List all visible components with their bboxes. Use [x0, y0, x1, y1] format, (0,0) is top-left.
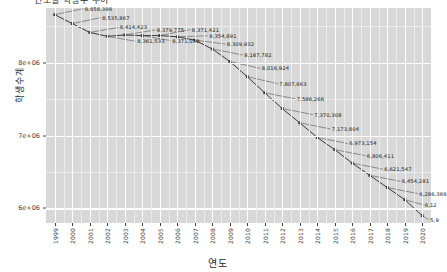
gridline-minor-vertical — [396, 8, 397, 223]
x-tick-label: 2019 — [402, 228, 409, 244]
gridline-minor-vertical — [309, 8, 310, 223]
gridline-major-vertical — [125, 8, 126, 223]
y-tick-label: 8e+06 — [18, 59, 40, 67]
x-tick-label: 2008 — [209, 228, 216, 244]
x-tick-mark — [90, 223, 91, 226]
gridline-major-vertical — [370, 8, 371, 223]
data-label: 8,309,932 — [227, 41, 254, 47]
gridline-minor-vertical — [204, 8, 205, 223]
x-tick-label: 1999 — [52, 228, 59, 244]
data-label: 8,658,398 — [85, 6, 112, 12]
x-tick-mark — [160, 223, 161, 226]
gridline-major-vertical — [212, 8, 213, 223]
gridline-minor-vertical — [99, 8, 100, 223]
gridline-minor-vertical — [291, 8, 292, 223]
data-label: 6,621,547 — [384, 166, 411, 172]
x-tick-label: 2010 — [244, 228, 251, 244]
gridline-major-vertical — [300, 8, 301, 223]
gridline-minor-vertical — [414, 8, 415, 223]
gridline-major-vertical — [265, 8, 266, 223]
label-leader-line — [72, 18, 101, 24]
gridline-major-vertical — [352, 8, 353, 223]
gridline-minor-vertical — [169, 8, 170, 223]
x-tick-mark — [370, 223, 371, 226]
data-label: 8,379,775 — [157, 27, 184, 33]
y-tick-mark — [43, 62, 46, 63]
data-label: 6,973,154 — [349, 140, 376, 146]
x-tick-label: 2006 — [174, 228, 181, 244]
x-tick-label: 2001 — [87, 228, 94, 244]
gridline-minor-vertical — [344, 8, 345, 223]
gridline-major-vertical — [282, 8, 283, 223]
data-label: 7,807,663 — [279, 81, 306, 87]
data-label: 8,371,030 — [172, 38, 199, 44]
x-tick-mark — [405, 223, 406, 226]
data-label: 8,361,533 — [137, 38, 164, 44]
x-tick-mark — [282, 223, 283, 226]
data-label: 8,371,421 — [192, 27, 219, 33]
x-tick-label: 2009 — [227, 228, 234, 244]
label-leader-line — [107, 36, 136, 41]
x-tick-mark — [352, 223, 353, 226]
x-tick-mark — [300, 223, 301, 226]
gridline-minor-vertical — [274, 8, 275, 223]
gridline-minor-vertical — [221, 8, 222, 223]
gridline-major-vertical — [55, 8, 56, 223]
x-tick-mark — [317, 223, 318, 226]
gridline-major-vertical — [405, 8, 406, 223]
x-axis-title: 연도 — [0, 255, 436, 270]
x-tick-label: 2016 — [349, 228, 356, 244]
data-label: 8,535,867 — [102, 15, 129, 21]
x-tick-label: 2020 — [419, 228, 426, 244]
data-label: 7,586,266 — [297, 96, 324, 102]
x-tick-label: 2013 — [297, 228, 304, 244]
label-leader-line — [55, 9, 84, 15]
gridline-minor-vertical — [64, 8, 65, 223]
gridline-major-vertical — [72, 8, 73, 223]
data-label: 6,454,281 — [402, 178, 429, 184]
data-label: 6,12 — [425, 202, 437, 208]
x-tick-mark — [247, 223, 248, 226]
x-tick-mark — [387, 223, 388, 226]
x-tick-mark — [195, 223, 196, 226]
x-tick-label: 2017 — [367, 228, 374, 244]
x-tick-mark — [265, 223, 266, 226]
gridline-minor-vertical — [256, 8, 257, 223]
x-tick-label: 2014 — [314, 228, 321, 244]
x-tick-label: 2004 — [139, 228, 146, 244]
data-label: 5,9 — [430, 217, 439, 223]
x-tick-label: 2000 — [69, 228, 76, 244]
x-tick-label: 2015 — [332, 228, 339, 244]
data-label: 7,370,308 — [314, 112, 341, 118]
data-label: 6,806,411 — [367, 153, 394, 159]
gridline-minor-vertical — [379, 8, 380, 223]
gridline-minor-vertical — [361, 8, 362, 223]
x-tick-label: 2007 — [192, 228, 199, 244]
x-tick-mark — [107, 223, 108, 226]
x-tick-mark — [55, 223, 56, 226]
gridline-minor-vertical — [81, 8, 82, 223]
gridline-minor-vertical — [134, 8, 135, 223]
x-tick-mark — [422, 223, 423, 226]
x-tick-mark — [177, 223, 178, 226]
data-label: 8,016,924 — [262, 65, 289, 71]
x-tick-label: 2003 — [122, 228, 129, 244]
y-tick-mark — [43, 208, 46, 209]
y-tick-label: 7e+06 — [18, 132, 40, 140]
gridline-major-vertical — [387, 8, 388, 223]
x-tick-mark — [230, 223, 231, 226]
data-label: 6,286,368 — [419, 191, 446, 197]
x-tick-label: 2002 — [104, 228, 111, 244]
gridline-major-vertical — [107, 8, 108, 223]
x-tick-label: 2005 — [157, 228, 164, 244]
gridline-major-vertical — [90, 8, 91, 223]
label-leader-line — [90, 27, 119, 32]
x-tick-mark — [142, 223, 143, 226]
data-label: 7,173,804 — [332, 126, 359, 132]
x-tick-mark — [335, 223, 336, 226]
x-tick-mark — [72, 223, 73, 226]
data-label: 8,187,782 — [244, 52, 271, 58]
x-tick-label: 2011 — [262, 228, 269, 244]
gridline-minor-vertical — [116, 8, 117, 223]
